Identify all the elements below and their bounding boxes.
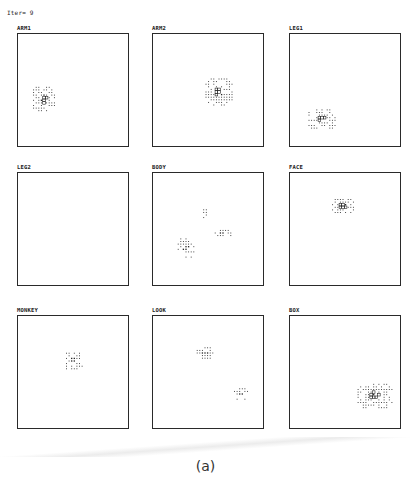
panel-arm2: ARM2 bbox=[152, 33, 264, 147]
panel-look: LOOK bbox=[152, 315, 264, 429]
panel-leg2: LEG2 bbox=[17, 172, 129, 286]
panel-label: ARM1 bbox=[17, 25, 31, 31]
panel-label: BODY bbox=[152, 164, 166, 170]
scan-artifact bbox=[0, 437, 411, 457]
panel-face: FACE bbox=[289, 172, 401, 286]
iteration-label: Iter= 9 bbox=[7, 9, 34, 16]
panel-label: ARM2 bbox=[152, 25, 166, 31]
dot-cluster-plot bbox=[18, 316, 128, 428]
dot-cluster-plot bbox=[18, 34, 128, 146]
panel-label: FACE bbox=[289, 164, 303, 170]
panel-body: BODY bbox=[152, 172, 264, 286]
panel-arm1: ARM1 bbox=[17, 33, 129, 147]
activation-map bbox=[17, 315, 129, 429]
dot-cluster-plot bbox=[153, 316, 263, 428]
panel-label: MONKEY bbox=[17, 307, 38, 313]
dot-cluster-plot bbox=[290, 34, 400, 146]
panel-label: BOX bbox=[289, 307, 300, 313]
panel-box: BOX bbox=[289, 315, 401, 429]
dot-cluster-plot bbox=[153, 173, 263, 285]
activation-map bbox=[289, 172, 401, 286]
activation-map bbox=[152, 172, 264, 286]
panel-monkey: MONKEY bbox=[17, 315, 129, 429]
dot-cluster-plot bbox=[290, 316, 400, 428]
activation-map bbox=[289, 315, 401, 429]
panel-leg1: LEG1 bbox=[289, 33, 401, 147]
dot-cluster-plot bbox=[153, 34, 263, 146]
activation-map bbox=[152, 315, 264, 429]
panel-label: LOOK bbox=[152, 307, 166, 313]
panel-label: LEG2 bbox=[17, 164, 31, 170]
activation-map bbox=[152, 33, 264, 147]
dot-cluster-plot bbox=[290, 173, 400, 285]
activation-map bbox=[289, 33, 401, 147]
activation-map bbox=[17, 33, 129, 147]
panel-label: LEG1 bbox=[289, 25, 303, 31]
activation-map bbox=[17, 172, 129, 286]
figure-caption: (a) bbox=[0, 458, 411, 474]
dot-cluster-plot bbox=[18, 173, 128, 285]
